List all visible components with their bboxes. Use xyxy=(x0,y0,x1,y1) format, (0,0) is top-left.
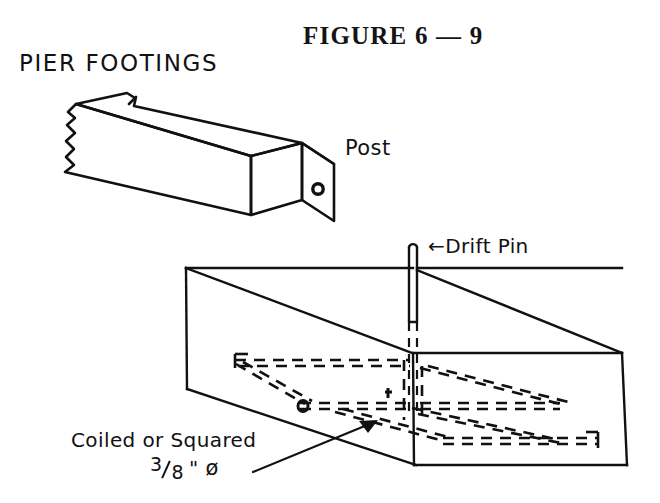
figure-title: FIGURE 6 — 9 xyxy=(303,22,543,50)
rebar-diag-right-a xyxy=(420,368,560,404)
pier-top-left-rail xyxy=(186,268,412,353)
fraction-numerator: 3 xyxy=(150,453,163,475)
post-drift-hole-icon xyxy=(313,184,323,194)
pier-top-right-rail xyxy=(417,270,622,353)
rebar-size-fraction: 3 8 xyxy=(150,457,188,479)
post-top-face xyxy=(76,93,302,156)
rebar-diag-lower-b xyxy=(418,414,566,444)
rebar-callout-line2: 3 8 " ø xyxy=(150,456,219,480)
drift-pin-label: ←Drift Pin xyxy=(428,234,529,258)
post-front-face xyxy=(65,104,251,215)
post-end-top xyxy=(302,143,334,164)
post-lower-edge xyxy=(251,143,302,215)
pier-right-vertical-edge xyxy=(622,353,627,465)
pier-footings-heading: PIER FOOTINGS xyxy=(19,50,218,76)
rebar-cage-hidden xyxy=(235,354,598,448)
rebar-diag-lower-a xyxy=(412,408,560,440)
pier-left-vertical-edge xyxy=(186,268,187,389)
diameter-symbol-icon: ø xyxy=(206,456,219,480)
rebar-diag-right-b xyxy=(428,366,568,402)
fraction-denominator: 8 xyxy=(172,461,185,483)
rebar-pin-intersection-mark xyxy=(385,388,392,398)
drift-pin xyxy=(409,244,417,322)
rebar-callout-line1: Coiled or Squared xyxy=(71,428,256,452)
post-drawing xyxy=(65,93,334,221)
rebar-size-unit: " xyxy=(189,456,199,480)
figure-illustration: FIGURE 6 — 9 PIER FOOTINGS Post ←Drift P… xyxy=(0,0,660,503)
rebar-diag-left-b xyxy=(243,362,312,401)
post-label: Post xyxy=(345,136,391,160)
rebar-diag-left-a xyxy=(236,364,305,404)
drift-pin-cap xyxy=(409,244,417,247)
